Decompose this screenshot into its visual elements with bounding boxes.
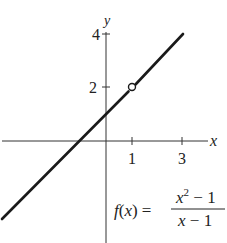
formula-lhs: f(x) = xyxy=(114,201,151,220)
function-line-right xyxy=(136,34,184,85)
hole-marker xyxy=(129,84,136,91)
formula-denominator: x − 1 xyxy=(177,211,212,230)
function-line-left xyxy=(2,92,129,220)
formula-numerator: x2 − 1 xyxy=(175,186,216,207)
x-tick-label-3: 3 xyxy=(178,150,186,167)
y-axis-label: y xyxy=(102,13,111,28)
y-tick-label-2: 2 xyxy=(89,79,97,96)
y-tick-label-4: 4 xyxy=(92,26,100,43)
x-axis-label: x xyxy=(209,132,217,149)
x-tick-label-1: 1 xyxy=(128,150,136,167)
function-graph: 1 3 2 4 x y f(x) = x2 − 1 x − 1 xyxy=(0,0,227,243)
